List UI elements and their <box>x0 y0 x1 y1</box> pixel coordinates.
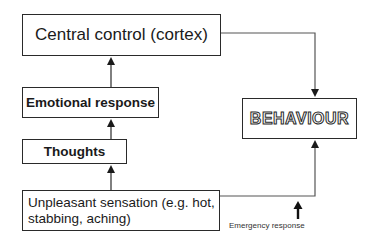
node-behaviour-label: BEHAVIOUR <box>250 110 349 128</box>
node-unpleasant-sensation: Unpleasant sensation (e.g. hot, stabbing… <box>22 190 220 231</box>
node-central-control-label: Central control (cortex) <box>35 25 208 45</box>
node-emotional-response-label: Emotional response <box>26 95 155 110</box>
node-central-control: Central control (cortex) <box>22 14 221 56</box>
arrow-sensation-to-behaviour <box>220 144 315 196</box>
node-unpleasant-sensation-label: Unpleasant sensation (e.g. hot, stabbing… <box>28 195 219 227</box>
node-behaviour: BEHAVIOUR <box>242 98 357 139</box>
node-thoughts: Thoughts <box>22 139 127 164</box>
emergency-response-label: Emergency response <box>229 221 305 230</box>
node-thoughts-label: Thoughts <box>44 144 105 159</box>
node-emotional-response: Emotional response <box>22 87 159 118</box>
emergency-arrow-icon <box>294 201 303 219</box>
arrow-central-to-behaviour <box>221 33 315 93</box>
